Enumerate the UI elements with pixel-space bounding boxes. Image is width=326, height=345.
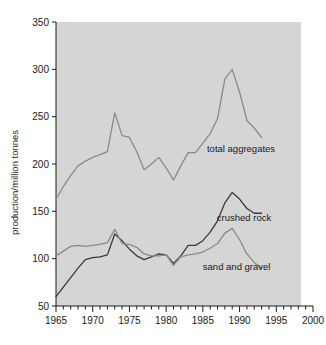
y-axis-tick-label: 50 — [38, 301, 50, 312]
y-axis-tick-label: 300 — [32, 64, 49, 75]
y-axis-tick-label: 350 — [32, 17, 49, 28]
annotation-crushed-rock: crushed rock — [217, 212, 272, 223]
x-axis-tick-label: 1970 — [82, 315, 105, 326]
y-axis-title: production/million tonnes — [9, 130, 20, 235]
x-axis-tick-label: 1990 — [228, 315, 251, 326]
annotation-sand-and-gravel: sand and gravel — [203, 261, 271, 272]
y-axis-tick-label: 250 — [32, 111, 49, 122]
annotation-total-aggregates: total aggregates — [207, 143, 275, 154]
chart-figure: 50100150200250300350 1965197019751980198… — [0, 0, 326, 345]
line-chart: 50100150200250300350 1965197019751980198… — [0, 0, 326, 345]
x-axis-tick-label: 1980 — [155, 315, 178, 326]
x-axis-tick-label: 1995 — [265, 315, 288, 326]
x-axis-tick-label: 1985 — [192, 315, 215, 326]
x-axis-tick-label: 2000 — [302, 315, 325, 326]
y-axis-tick-label: 100 — [32, 253, 49, 264]
y-axis-tick-label: 200 — [32, 159, 49, 170]
x-axis-tick-label: 1975 — [118, 315, 141, 326]
y-axis-tick-label: 150 — [32, 206, 49, 217]
x-axis-tick-label: 1965 — [45, 315, 68, 326]
